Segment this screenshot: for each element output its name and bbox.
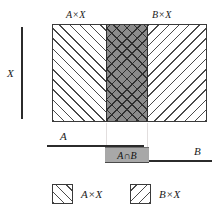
- legend-label-a-cross-x: A×X: [81, 189, 102, 200]
- guide-line-left: [106, 123, 107, 147]
- legend-label-b-cross-x: B×X: [159, 189, 180, 200]
- label-set-b: B: [194, 146, 201, 157]
- region-a-cross-x: [53, 25, 106, 121]
- set-a-intersect-b-band: A∩B: [105, 147, 149, 163]
- label-set-a: A: [60, 131, 67, 142]
- product-rectangle: [52, 24, 207, 122]
- label-a-cross-x-top: A×X: [66, 10, 86, 20]
- legend-swatch-a-cross-x: [52, 184, 73, 204]
- region-a-intersect-b-cross-x: [106, 25, 148, 121]
- guide-line-right: [147, 123, 148, 147]
- label-b-cross-x-top: B×X: [152, 10, 172, 20]
- region-b-cross-x: [148, 25, 206, 121]
- label-x-axis: X: [7, 68, 14, 79]
- x-axis-bar: [21, 27, 23, 119]
- label-a-intersect-b: A∩B: [117, 150, 136, 161]
- set-product-diagram: A×X B×X X A B A∩B A×X B×X: [0, 0, 224, 213]
- legend-swatch-b-cross-x: [130, 184, 151, 204]
